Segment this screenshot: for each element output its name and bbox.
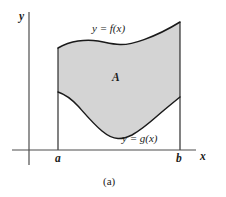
figure-container: y x a b A y = f(x) y = g(x) (a) (0, 0, 226, 197)
upper-bound-label-b: b (176, 153, 182, 165)
upper-curve-label: y = f(x) (92, 23, 125, 34)
lower-curve-label: y = g(x) (122, 133, 158, 144)
region-label-A: A (112, 72, 120, 84)
lower-bound-label-a: a (55, 153, 61, 165)
figure-caption: (a) (103, 176, 115, 187)
y-axis-label: y (19, 11, 24, 23)
x-axis-label: x (200, 151, 206, 163)
